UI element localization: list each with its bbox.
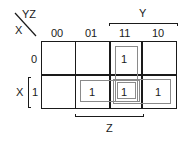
col-header-01: 01 xyxy=(85,28,97,39)
value-1-11: 1 xyxy=(118,87,130,98)
row-header-0: 0 xyxy=(31,54,37,65)
col-header-10: 10 xyxy=(152,28,164,39)
value-0-11: 1 xyxy=(118,54,130,65)
x-span-tick-top xyxy=(28,77,31,78)
row-header-1: 1 xyxy=(32,87,38,98)
y-span-bar xyxy=(109,23,178,24)
z-span-tick-left xyxy=(75,114,76,117)
x-span-bar xyxy=(28,77,29,108)
y-span-tick-left xyxy=(109,23,110,26)
y-span-label: Y xyxy=(139,8,146,19)
value-1-01: 1 xyxy=(86,87,98,98)
z-span-bar xyxy=(75,116,144,117)
corner-diagonal xyxy=(14,12,38,38)
cell-1-00 xyxy=(41,74,76,109)
cell-0-10 xyxy=(141,41,177,76)
x-span-tick-bottom xyxy=(28,107,31,108)
col-header-00: 00 xyxy=(51,28,63,39)
y-span-tick-right xyxy=(177,23,178,26)
z-span-label: Z xyxy=(106,123,113,134)
z-span-tick-right xyxy=(143,114,144,117)
cell-0-01 xyxy=(75,41,111,76)
col-header-11: 11 xyxy=(119,28,130,39)
cell-0-00 xyxy=(41,41,76,76)
x-span-label: X xyxy=(16,87,23,98)
value-1-10: 1 xyxy=(152,87,164,98)
